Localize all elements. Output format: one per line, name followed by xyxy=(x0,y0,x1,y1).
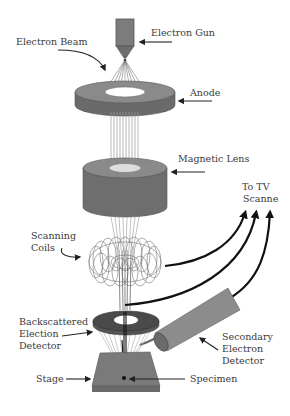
label-scanning-1: Scanning xyxy=(31,230,76,241)
scanning-coils-pointer xyxy=(61,248,80,257)
sem-diagram: Electron Gun Electron Beam Anode Magneti… xyxy=(0,0,290,416)
secondary-pointer xyxy=(200,338,218,350)
electron-beam-pointer xyxy=(58,50,105,70)
to-tv-scanner-arrows xyxy=(125,213,270,305)
beam-through-coils xyxy=(119,250,131,310)
magnetic-lens xyxy=(83,158,167,217)
beam-bundle-lower xyxy=(111,217,139,250)
label-magnetic-lens: Magnetic Lens xyxy=(178,153,249,164)
stage xyxy=(92,352,160,392)
anode xyxy=(75,81,175,116)
label-specimen: Specimen xyxy=(190,373,237,384)
specimen xyxy=(122,376,126,380)
label-to-tv-2: Scanne xyxy=(243,193,279,204)
label-electron-beam: Electron Beam xyxy=(16,36,87,47)
label-electron-gun: Electron Gun xyxy=(151,27,215,38)
label-backscattered-2: Election xyxy=(19,328,59,339)
label-secondary-2: Electron xyxy=(222,343,263,354)
label-backscattered-1: Backscattered xyxy=(19,316,88,327)
label-scanning-2: Coils xyxy=(31,242,55,253)
backscattered-pointer xyxy=(62,332,92,336)
label-secondary-3: Detector xyxy=(222,355,265,366)
electron-gun xyxy=(116,19,134,58)
label-backscattered-3: Detector xyxy=(19,340,62,351)
label-anode: Anode xyxy=(189,87,221,98)
label-to-tv-1: To TV xyxy=(242,181,270,192)
label-secondary-1: Secondary xyxy=(222,331,274,342)
label-stage: Stage xyxy=(36,373,64,384)
